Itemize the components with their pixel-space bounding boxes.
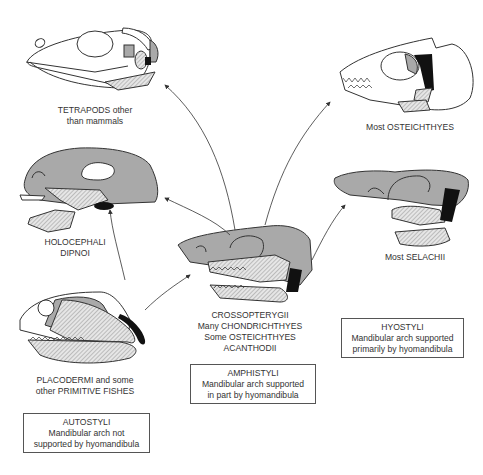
arrow-placodermi-to-crossopterygii	[145, 275, 190, 310]
arrow-crossopterygii-to-tetrapods	[165, 85, 235, 230]
box-hyostyli: HYOSTYLI Mandibular arch supported prima…	[341, 318, 464, 358]
holocephali-skull-illustration	[20, 148, 158, 232]
label-crossopterygii: CROSSOPTERYGII Many CHONDRICHTHYES Some …	[185, 310, 315, 354]
tetrapod-skull-illustration	[26, 28, 158, 90]
osteichthyes-skull-illustration	[340, 38, 473, 112]
label-tetrapods: TETRAPODS other than mammals	[40, 105, 150, 127]
box-amphistyli: AMPHISTYLI Mandibular arch supported in …	[190, 364, 316, 404]
placodermi-skull-illustration	[20, 292, 145, 363]
selachii-skull-illustration	[334, 170, 468, 246]
label-holocephali: HOLOCEPHALI DIPNOI	[30, 237, 120, 259]
arrow-crossopterygii-to-holocephali	[165, 198, 230, 235]
crossopterygii-skull-illustration	[178, 226, 312, 302]
arrow-crossopterygii-to-osteichthyes	[265, 102, 330, 225]
label-osteichthyes: Most OSTEICHTHYES	[360, 122, 460, 133]
label-selachii: Most SELACHII	[370, 252, 460, 263]
label-placodermi: PLACODERMI and some other PRIMITIVE FISH…	[25, 375, 145, 397]
arrow-crossopterygii-to-selachii	[312, 205, 345, 260]
box-autostyli: AUTOSTYLI Mandibular arch not supported …	[23, 413, 150, 453]
